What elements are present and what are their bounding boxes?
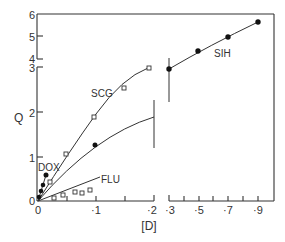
y-tick-5: 5	[29, 31, 35, 43]
y-tick-2: 2	[29, 107, 35, 119]
y-tick-3: 3	[29, 62, 35, 74]
label-sih: SIH	[214, 48, 231, 59]
filled-curve	[38, 117, 154, 201]
y-tick-labels: 6 5 4 3 2 1 0	[29, 9, 35, 207]
x-tick-0.3: ·3	[165, 204, 175, 216]
x-tick-0.2: ·2	[147, 204, 157, 216]
x-tick-0.1: ·1	[91, 204, 101, 216]
plot-frame	[37, 14, 274, 201]
filled-markers	[37, 19, 261, 199]
y-tick-6: 6	[29, 9, 35, 21]
x-tick-0.9: ·9	[253, 204, 263, 216]
series-labels: SCG DOX FLU SIH	[38, 48, 231, 185]
scg-markers	[48, 66, 151, 184]
x-tick-0: 0	[35, 204, 41, 216]
x-tick-0.5: ·5	[194, 204, 204, 216]
y-axis-title: Q	[14, 111, 23, 125]
x-tick-labels: 0 ·1 ·2 ·3 ·5 ·7 ·9	[35, 204, 263, 216]
label-dox: DOX	[38, 162, 60, 173]
sih-curve	[169, 22, 258, 69]
x-tick-0.7: ·7	[223, 204, 233, 216]
chart: 6 5 4 3 2 1 0 0 ·1 ·2 ·3 ·5 ·7 ·9 Q [D]	[0, 0, 285, 242]
flu-markers	[52, 188, 92, 200]
y-tick-1: 1	[29, 152, 35, 164]
label-scg: SCG	[91, 88, 113, 99]
label-flu: FLU	[101, 174, 120, 185]
x-axis-title: [D]	[141, 219, 156, 233]
